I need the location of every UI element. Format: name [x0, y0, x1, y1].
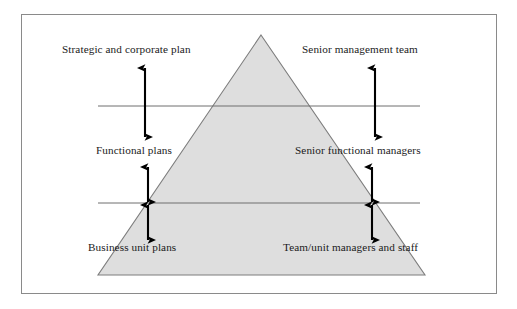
label-team-unit-managers-and-staff: Team/unit managers and staff [283, 241, 418, 253]
label-functional-plans: Functional plans [96, 144, 172, 156]
label-senior-functional-managers: Senior functional managers [295, 144, 421, 156]
label-strategic-and-corporate-plan: Strategic and corporate plan [62, 43, 191, 55]
label-senior-management-team: Senior management team [302, 43, 418, 55]
label-business-unit-plans: Business unit plans [88, 241, 176, 253]
diagram-canvas: Strategic and corporate plan Senior mana… [0, 0, 517, 309]
